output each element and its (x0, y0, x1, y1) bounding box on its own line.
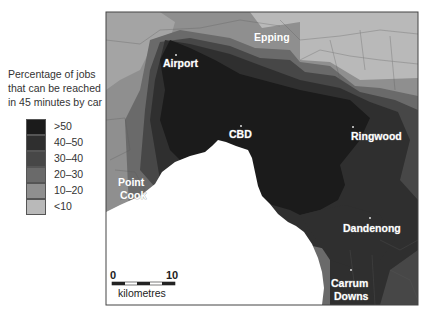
place-label-ringwood: Ringwood (351, 130, 402, 142)
place-label-epping: Epping (254, 31, 290, 43)
place-label-carrum-downs-line1: Carrum (331, 277, 368, 289)
place-label-dandenong: Dandenong (343, 222, 401, 234)
scale-unit-label: kilometres (118, 287, 166, 299)
place-label-point-cook-line2: Cook (120, 189, 146, 201)
scale-start-label: 0 (110, 269, 116, 281)
choropleth-map: Airport Epping CBD Ringwood Point Cook D… (0, 0, 430, 317)
map-regions (106, 12, 418, 305)
place-label-airport: Airport (163, 57, 199, 69)
place-label-cbd: CBD (229, 128, 252, 140)
scale-end-label: 10 (166, 269, 178, 281)
place-label-point-cook-line1: Point (118, 176, 145, 188)
place-label-carrum-downs-line2: Downs (334, 290, 369, 302)
